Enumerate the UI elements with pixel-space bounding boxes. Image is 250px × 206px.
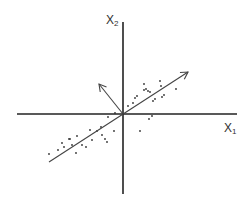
data-point	[143, 89, 145, 91]
data-point	[143, 83, 145, 85]
data-point	[160, 85, 162, 87]
data-point	[71, 144, 73, 146]
data-point	[139, 130, 141, 132]
data-point	[75, 152, 77, 154]
data-point	[148, 118, 150, 120]
principal-component-1-arrow-icon	[49, 72, 188, 162]
data-point	[89, 129, 91, 131]
data-point	[69, 138, 71, 140]
principal-component-2-arrow-icon	[99, 84, 123, 114]
data-point	[81, 144, 83, 146]
pca-diagram	[0, 0, 250, 206]
y-axis-label: X2	[106, 14, 118, 28]
data-point	[85, 146, 87, 148]
data-point	[101, 134, 103, 136]
data-point	[91, 139, 93, 141]
data-point	[61, 142, 63, 144]
data-point	[136, 95, 138, 97]
data-point	[76, 135, 78, 137]
data-point	[107, 116, 109, 118]
data-point	[127, 105, 129, 107]
data-point	[134, 97, 136, 99]
data-point	[114, 112, 116, 114]
data-point	[63, 146, 65, 148]
data-point	[152, 100, 154, 102]
x-axis-label: X1	[224, 122, 236, 136]
data-point	[57, 149, 59, 151]
data-point	[163, 94, 165, 96]
data-point	[159, 80, 161, 82]
data-point	[113, 130, 115, 132]
data-point	[48, 153, 50, 155]
data-point	[132, 102, 134, 104]
principal-vectors	[49, 72, 188, 162]
data-point	[147, 90, 149, 92]
data-point	[154, 98, 156, 100]
data-point	[175, 88, 177, 90]
data-point	[151, 115, 153, 117]
data-point	[161, 96, 163, 98]
data-point	[106, 141, 108, 143]
data-point	[104, 138, 106, 140]
data-point	[149, 91, 151, 93]
data-point	[145, 88, 147, 90]
